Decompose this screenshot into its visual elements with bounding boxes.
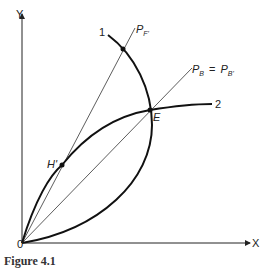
x-axis-label: X — [252, 237, 260, 249]
ray-pf — [22, 28, 135, 243]
curve-1-label: 1 — [99, 26, 105, 38]
point-pf-intersection — [121, 47, 126, 52]
origin-label: 0 — [17, 238, 23, 250]
point-h-label: H' — [47, 158, 58, 170]
ray-pf-label: PF' — [136, 23, 150, 37]
point-e — [148, 108, 153, 113]
diagram-canvas: Y X 0 1 2 PF' PB=PB' E H' — [0, 0, 265, 274]
y-axis-label: Y — [16, 8, 24, 20]
figure-caption: Figure 4.1 — [4, 254, 56, 269]
curve-2 — [22, 104, 212, 243]
point-e-label: E — [153, 111, 161, 123]
ray-pb — [22, 68, 192, 243]
ray-pb-label: PB=PB' — [192, 63, 234, 77]
point-h — [60, 163, 65, 168]
curve-2-label: 2 — [215, 98, 221, 110]
